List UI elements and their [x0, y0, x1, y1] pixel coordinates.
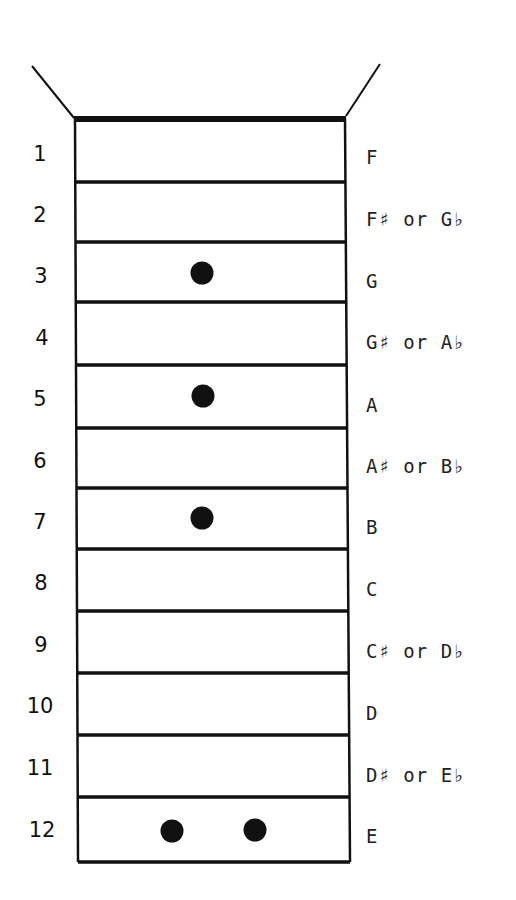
note-label: A♯ or B♭ [366, 455, 466, 477]
fret-number: 9 [16, 633, 66, 657]
note-label: D♯ or E♭ [366, 764, 466, 786]
fret-number: 11 [15, 756, 65, 780]
marker-dot-fret-5 [192, 385, 215, 408]
note-label: G♯ or A♭ [366, 331, 466, 353]
fret-number: 6 [15, 449, 65, 473]
note-label: F [366, 146, 378, 168]
marker-dot-fret-12-left [161, 820, 184, 843]
fretboard-right-edge [345, 118, 350, 862]
note-label: A [366, 394, 378, 416]
fretboard-left-edge [75, 118, 78, 862]
fret-number: 2 [15, 203, 65, 227]
note-label: G [366, 270, 378, 292]
fret-number: 3 [16, 264, 66, 288]
fret-number: 1 [15, 142, 65, 166]
headstock-line-left [32, 66, 74, 118]
note-label: D [366, 702, 378, 724]
fret-number: 4 [17, 326, 67, 350]
fret-number: 7 [15, 510, 65, 534]
fret-number: 12 [17, 818, 67, 842]
fret-number: 10 [15, 694, 65, 718]
note-label: F♯ or G♭ [366, 208, 466, 230]
headstock-line-right [346, 64, 380, 116]
note-label: C♯ or D♭ [366, 640, 466, 662]
fret-number: 5 [15, 387, 65, 411]
marker-dot-fret-3 [191, 262, 214, 285]
marker-dot-fret-12-right [244, 819, 267, 842]
note-label: C [366, 578, 378, 600]
note-label: B [366, 516, 378, 538]
note-label: E [366, 825, 378, 847]
fret-number: 8 [16, 571, 66, 595]
marker-dot-fret-7 [191, 507, 214, 530]
